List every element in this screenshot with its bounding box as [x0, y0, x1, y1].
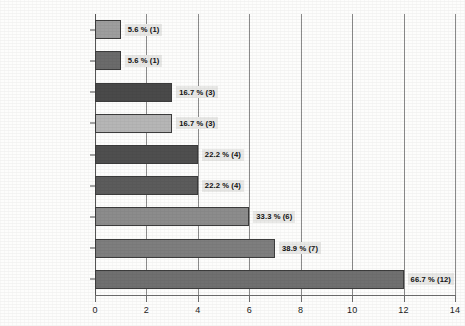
bar-row: Jazz16.7 % (3) — [95, 83, 455, 102]
x-tick-14 — [455, 295, 456, 302]
bar-row: R&B22.2 % (4) — [95, 176, 455, 195]
x-axis-line — [95, 295, 455, 296]
x-tick-label-14: 14 — [450, 305, 460, 315]
bar-pop[interactable] — [95, 207, 249, 226]
bar-value-label-other-please-specify: 38.9 % (7) — [279, 242, 321, 254]
bar-row: Classical5.6 % (1) — [95, 20, 455, 39]
bar-classical[interactable] — [95, 20, 121, 39]
x-tick-10 — [352, 295, 353, 302]
bar-jazz[interactable] — [95, 83, 172, 102]
bar-value-label-r-b: 22.2 % (4) — [202, 180, 244, 192]
bar-value-label-pop: 33.3 % (6) — [253, 211, 295, 223]
bar-row: Hip-hop5.6 % (1) — [95, 51, 455, 70]
x-tick-12 — [404, 295, 405, 302]
x-tick-label-12: 12 — [398, 305, 408, 315]
x-tick-label-6: 6 — [247, 305, 252, 315]
bar-row: Hymns22.2 % (4) — [95, 145, 455, 164]
bar-rock[interactable] — [95, 270, 404, 289]
bar-row: Pop33.3 % (6) — [95, 207, 455, 226]
bar-hymns[interactable] — [95, 145, 198, 164]
bar-hip-hop[interactable] — [95, 51, 121, 70]
x-tick-label-10: 10 — [347, 305, 357, 315]
x-tick-label-8: 8 — [298, 305, 303, 315]
bar-value-label-country: 16.7 % (3) — [176, 117, 218, 129]
x-tick-2 — [146, 295, 147, 302]
bar-value-label-jazz: 16.7 % (3) — [176, 86, 218, 98]
x-tick-label-4: 4 — [195, 305, 200, 315]
gridline-14 — [455, 14, 456, 295]
bar-value-label-hip-hop: 5.6 % (1) — [125, 55, 163, 67]
bar-row: Other (please specify)38.9 % (7) — [95, 239, 455, 258]
bar-r-b[interactable] — [95, 176, 198, 195]
bar-row: Rock66.7 % (12) — [95, 270, 455, 289]
bar-value-label-classical: 5.6 % (1) — [125, 24, 163, 36]
x-tick-0 — [95, 295, 96, 302]
plot-area: Classical5.6 % (1)Hip-hop5.6 % (1)Jazz16… — [95, 14, 455, 295]
x-tick-8 — [301, 295, 302, 302]
bar-other-please-specify[interactable] — [95, 239, 275, 258]
x-tick-6 — [249, 295, 250, 302]
x-tick-label-0: 0 — [92, 305, 97, 315]
bar-value-label-rock: 66.7 % (12) — [408, 273, 454, 285]
x-tick-label-2: 2 — [144, 305, 149, 315]
bar-country[interactable] — [95, 114, 172, 133]
bar-row: Country16.7 % (3) — [95, 114, 455, 133]
bar-value-label-hymns: 22.2 % (4) — [202, 149, 244, 161]
x-tick-4 — [198, 295, 199, 302]
bar-chart: 02468101214 Classical5.6 % (1)Hip-hop5.6… — [0, 0, 465, 326]
